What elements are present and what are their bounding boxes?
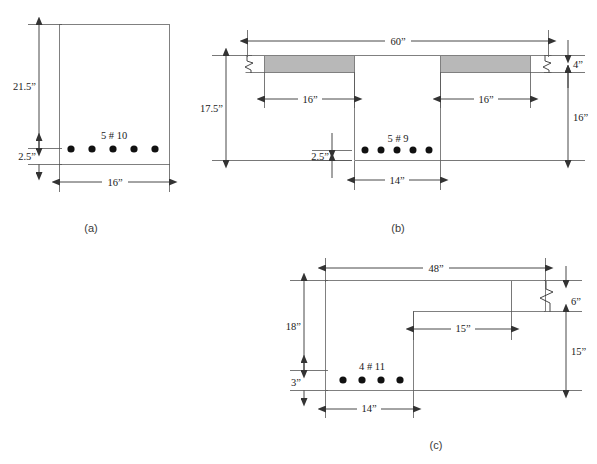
part-c-web-depth-label: 15” [571, 346, 587, 357]
rebar-dot [130, 145, 137, 152]
part-c-flange-thickness-label: 6” [571, 296, 581, 307]
part-b-overhang-left-label: 16” [302, 94, 318, 105]
part-c-caption: (c) [430, 439, 443, 451]
rebar-dot [151, 145, 158, 152]
part-c-overhang-label: 15” [455, 323, 471, 334]
part-a-group: 5 # 10 21.5” 2.5” 16” (a) [13, 25, 170, 235]
rebar-dot [339, 376, 346, 383]
part-c-flange-width-label: 48” [428, 263, 444, 274]
part-b-depth-label: 17.5” [200, 103, 223, 114]
part-b-web-depth-label: 16” [573, 112, 589, 123]
rebar-dot [88, 145, 95, 152]
rebar-dot [394, 147, 401, 154]
break-symbol-right-icon [543, 56, 551, 73]
part-b-overhang-right-label: 16” [478, 94, 494, 105]
part-a-rebar-group [67, 145, 158, 152]
part-b-group: 5 # 9 60” 16” 16” 17.5” [200, 30, 592, 234]
rebar-dot [109, 145, 116, 152]
part-b-flange-thickness-label: 4” [573, 59, 583, 70]
part-c-web-width-label: 14” [361, 403, 377, 414]
rebar-dot [377, 376, 384, 383]
rebar-dot [426, 147, 433, 154]
part-c-rebar-group [339, 376, 403, 383]
part-c-section-outline [326, 281, 546, 391]
part-c-depth-label: 18” [286, 321, 302, 332]
rebar-dot [410, 147, 417, 154]
rebar-dot [396, 376, 403, 383]
break-symbol-icon [540, 281, 553, 312]
part-a-caption: (a) [84, 222, 97, 234]
part-b-rebar-label: 5 # 9 [388, 133, 409, 144]
rebar-dot [362, 147, 369, 154]
rebar-dot [67, 145, 74, 152]
part-a-cover-label: 2.5” [18, 151, 36, 162]
part-a-depth-label: 21.5” [13, 81, 36, 92]
figure-canvas: 5 # 10 21.5” 2.5” 16” (a) [0, 0, 597, 464]
part-b-rebar-group [362, 147, 433, 154]
break-symbol-left-icon [245, 56, 253, 73]
part-b-caption: (b) [391, 222, 404, 234]
part-b-flange-shade-left [265, 56, 355, 73]
rebar-dot [378, 147, 385, 154]
part-c-group: 4 # 11 48” 18” 3” 14” [286, 258, 590, 451]
part-b-web-width-label: 14” [389, 175, 405, 186]
part-b-flange-shade-right [441, 56, 531, 73]
part-b-cover-label: 2.5” [311, 151, 329, 162]
part-c-cover-label: 3” [291, 377, 301, 388]
beam-sections-figure: 5 # 10 21.5” 2.5” 16” (a) [0, 0, 597, 464]
part-a-width-label: 16” [107, 177, 123, 188]
rebar-dot [358, 376, 365, 383]
part-a-rebar-label: 5 # 10 [101, 130, 127, 141]
part-c-rebar-label: 4 # 11 [359, 361, 385, 372]
part-a-section-outline [60, 25, 170, 165]
part-b-flange-width-label: 60” [390, 36, 406, 47]
